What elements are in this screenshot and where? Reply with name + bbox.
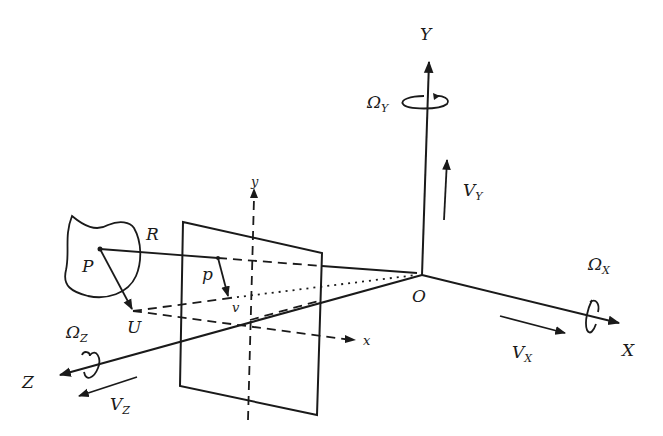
projection-ray-P [100, 249, 417, 273]
omega-z-symbol: Ω [65, 322, 80, 342]
label-Z: Z [21, 372, 35, 392]
vz-sub: Z [121, 404, 130, 417]
vx-sub: X [523, 352, 533, 365]
vy-arrow [444, 160, 447, 220]
label-p: p [202, 264, 213, 284]
omega-z-sub: Z [79, 332, 88, 345]
label-vy: VY [463, 180, 484, 203]
label-P: P [81, 256, 94, 276]
label-U: U [127, 317, 142, 337]
label-R: R [145, 224, 159, 244]
image-x-axis [133, 311, 356, 343]
vx-arrow [500, 316, 565, 333]
label-omega-z: ΩZ [65, 322, 88, 345]
omega-y-symbol: Ω [366, 92, 381, 112]
vz-arrow [79, 377, 137, 396]
label-image-y: y [250, 174, 259, 189]
vector-p-to-v [216, 256, 228, 296]
label-omega-x: ΩX [587, 254, 611, 277]
label-vx: VX [512, 342, 533, 365]
label-origin-O: O [412, 286, 426, 306]
vy-sub: Y [475, 190, 484, 203]
omega-x-symbol: Ω [587, 254, 602, 274]
projection-ray-U [133, 275, 416, 311]
region-R [65, 216, 140, 297]
image-plane [180, 222, 322, 415]
vector-P-to-U [98, 247, 133, 310]
world-y-axis [422, 62, 429, 275]
label-Y: Y [420, 24, 433, 44]
omega-x-sub: X [601, 264, 611, 277]
motion-geometry-diagram: Y X Z O ΩY ΩX ΩZ VY VX VZ y x P p U v R [0, 0, 663, 436]
world-x-axis [422, 275, 619, 323]
label-X: X [620, 340, 635, 360]
image-y-axis [248, 188, 258, 420]
label-image-x: x [363, 333, 371, 348]
label-omega-y: ΩY [366, 92, 390, 115]
label-vz: VZ [110, 394, 130, 417]
omega-y-rotation-icon [402, 93, 448, 109]
optical-axis-ray [250, 300, 322, 320]
label-v: v [232, 300, 240, 315]
omega-y-sub: Y [381, 102, 390, 115]
